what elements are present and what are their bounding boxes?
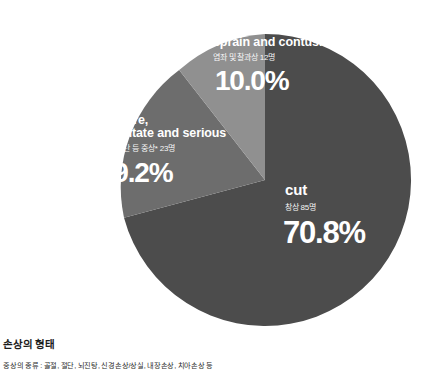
pie-label-fracture-title-line2: amputate and serious [99, 127, 226, 140]
chart-footnote: 중상의 종류 : 골절, 절단, 뇌진탕, 신경손상/상실, 내장손상, 치아손… [3, 360, 443, 370]
pie-label-sprain-title: sprain and contusion [213, 36, 337, 49]
chart-title: 손상의 형태 [3, 336, 443, 351]
pie-label-sprain-percent: 10.0% [215, 66, 337, 95]
pie-label-fracture-subtitle: 골절, 절단 등 중상* 23명 [99, 145, 226, 153]
pie-label-cut-percent: 70.8% [283, 217, 365, 250]
pie-label-sprain-subtitle: 염좌 및 찰과상 12명 [213, 54, 337, 62]
pie-label-cut-subtitle: 창상 85명 [285, 204, 365, 212]
pie-label-cut: cut 창상 85명 70.8% [285, 182, 365, 250]
pie-label-sprain: sprain and contusion 염좌 및 찰과상 12명 10.0% [213, 36, 337, 95]
pie-label-fracture: fracture, amputate and serious 골절, 절단 등 … [99, 114, 226, 187]
pie-label-cut-title: cut [285, 182, 365, 198]
pie-label-fracture-percent: 19.2% [99, 158, 226, 187]
caption-block: 손상의 형태 중상의 종류 : 골절, 절단, 뇌진탕, 신경손상/상실, 내장… [3, 336, 443, 370]
pie-chart: sprain and contusion 염좌 및 찰과상 12명 10.0% … [0, 0, 447, 390]
